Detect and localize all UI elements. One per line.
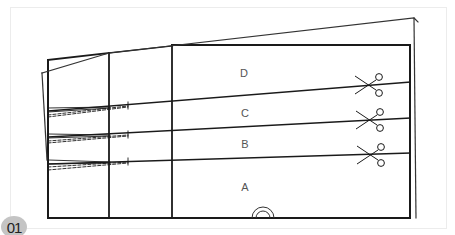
panel-label-c: C: [241, 107, 249, 119]
panel-label-d: D: [240, 67, 248, 79]
panel-label-b: B: [241, 138, 248, 150]
pattern-diagram: [0, 0, 455, 235]
panel-label-a: A: [241, 181, 248, 193]
figure-number-badge: 01: [1, 216, 27, 235]
panel-division-lines: [48, 82, 410, 164]
pattern-outline: [48, 45, 410, 218]
fold-symbol-icon: [252, 207, 274, 218]
slanted-overlay-outline: [42, 18, 418, 218]
